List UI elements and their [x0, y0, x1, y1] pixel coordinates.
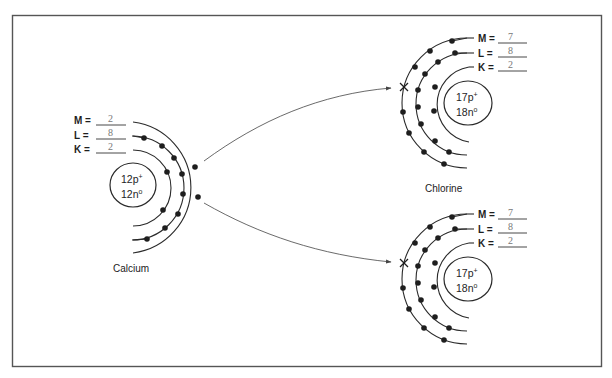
- transferred-electron-x-icon: [400, 259, 408, 267]
- shell-value-k: 2: [508, 235, 513, 246]
- transfer-arrow-top: [204, 88, 391, 161]
- shell-label-l: L =: [478, 224, 493, 235]
- nucleus-chlorine: [444, 257, 492, 301]
- nucleus-chlorine: [444, 81, 492, 125]
- shell-labels-chlorine-top: M = 7 L = 8 K = 2: [467, 31, 527, 73]
- shell-label-m: M =: [478, 209, 495, 220]
- shell-label-k: K =: [74, 144, 90, 155]
- shell-label-l: L =: [74, 130, 89, 141]
- shell-labels-chlorine-bottom: M = 7 L = 8 K = 2: [467, 207, 527, 249]
- shell-value-l: 8: [508, 221, 513, 232]
- shell-labels-calcium: M = 2 L = 8 K = 2: [74, 113, 126, 155]
- diagram-canvas: M = 2 L = 8 K = 2 12p+ 12no: [0, 0, 612, 378]
- atom-name-calcium: Calcium: [113, 263, 149, 274]
- shell-value-l: 8: [508, 45, 513, 56]
- transferred-electron-x-icon: [400, 83, 408, 91]
- shell-label-l: L =: [478, 48, 493, 59]
- shell-value-k: 2: [108, 141, 113, 152]
- nucleus-calcium: [110, 163, 156, 207]
- diagram-frame: [13, 16, 602, 367]
- shell-value-l: 8: [108, 127, 113, 138]
- atom-calcium: M = 2 L = 8 K = 2 12p+ 12no: [74, 113, 201, 274]
- shell-label-m: M =: [74, 115, 91, 126]
- atom-chlorine-top: 17p+ 18no: [400, 31, 527, 194]
- transfer-arrow-bottom: [204, 203, 391, 262]
- atom-name-chlorine: Chlorine: [425, 183, 463, 194]
- shell-value-k: 2: [508, 59, 513, 70]
- shell-label-k: K =: [478, 62, 494, 73]
- shell-value-m: 7: [508, 207, 513, 218]
- shell-value-m: 7: [508, 31, 513, 42]
- shell-label-m: M =: [478, 33, 495, 44]
- atom-chlorine-bottom: 17p+ 18no M =: [400, 207, 527, 344]
- shell-label-k: K =: [478, 238, 494, 249]
- shell-value-m: 2: [108, 113, 113, 124]
